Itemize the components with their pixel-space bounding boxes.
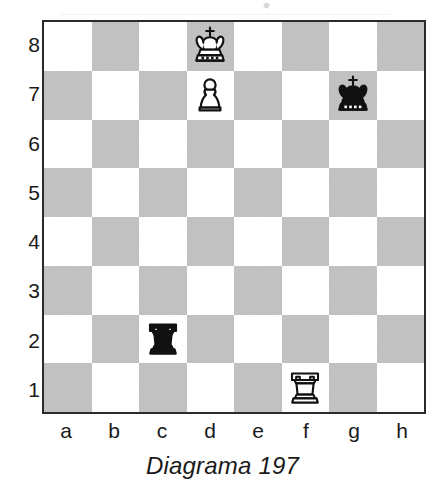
rank-label-7: 7 <box>18 69 40 118</box>
rank-label-3: 3 <box>18 266 40 315</box>
chessboard-border <box>42 20 426 414</box>
rank-label-5: 5 <box>18 168 40 217</box>
file-label-a: a <box>42 416 90 444</box>
scan-hairline-artifact <box>60 14 390 15</box>
file-label-g: g <box>330 416 378 444</box>
file-label-c: c <box>138 416 186 444</box>
file-label-e: e <box>234 416 282 444</box>
rank-label-8: 8 <box>18 20 40 69</box>
rank-coordinate-column: 8 7 6 5 4 3 2 1 <box>18 20 40 414</box>
diagram-caption: Diagrama 197 <box>0 452 445 480</box>
file-label-d: d <box>186 416 234 444</box>
rank-label-6: 6 <box>18 119 40 168</box>
scan-speck-artifact <box>263 2 270 9</box>
rank-label-2: 2 <box>18 316 40 365</box>
file-label-h: h <box>378 416 426 444</box>
file-coordinate-row: a b c d e f g h <box>42 416 426 444</box>
rank-label-4: 4 <box>18 217 40 266</box>
chess-diagram-figure: 8 7 6 5 4 3 2 1 a b c d e f g h Diagrama… <box>0 0 445 486</box>
rank-label-1: 1 <box>18 365 40 414</box>
chessboard <box>42 20 426 414</box>
file-label-f: f <box>282 416 330 444</box>
file-label-b: b <box>90 416 138 444</box>
